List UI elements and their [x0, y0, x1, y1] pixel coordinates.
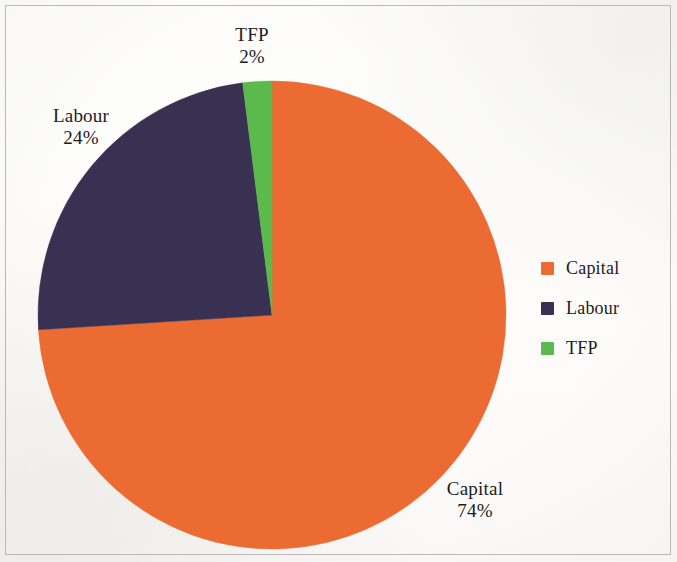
chart-plot-area: TFP 2% Labour 24% Capital 74% CapitalLab… [0, 0, 677, 562]
slice-label-labour-value: 24% [18, 127, 144, 149]
slice-label-tfp: TFP 2% [192, 24, 312, 68]
slice-label-tfp-name: TFP [192, 24, 312, 46]
legend-item-capital[interactable]: Capital [541, 248, 671, 288]
legend-label-tfp: TFP [566, 338, 598, 359]
legend-item-labour[interactable]: Labour [541, 288, 671, 328]
slice-label-tfp-value: 2% [192, 46, 312, 68]
square-swatch-icon-labour [541, 302, 554, 315]
chart-legend: CapitalLabourTFP [541, 248, 671, 368]
legend-label-labour: Labour [566, 298, 619, 319]
slice-label-labour-name: Labour [18, 105, 144, 127]
legend-item-tfp[interactable]: TFP [541, 328, 671, 368]
slice-label-capital-name: Capital [405, 478, 545, 500]
slice-label-labour: Labour 24% [18, 105, 144, 149]
slice-label-capital: Capital 74% [405, 478, 545, 522]
pie-chart-figure: TFP 2% Labour 24% Capital 74% CapitalLab… [0, 0, 677, 562]
square-swatch-icon-tfp [541, 342, 554, 355]
legend-label-capital: Capital [566, 258, 619, 279]
square-swatch-icon-capital [541, 262, 554, 275]
slice-label-capital-value: 74% [405, 500, 545, 522]
